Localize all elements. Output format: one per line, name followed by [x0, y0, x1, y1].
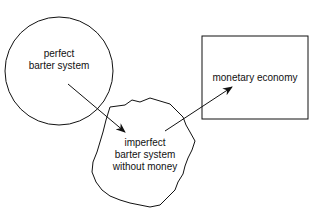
label-line: imperfect [100, 137, 190, 149]
monetary-economy-label: monetary economy [205, 72, 305, 84]
diagram-canvas: perfect barter system imperfect barter s… [0, 0, 321, 218]
perfect-barter-label: perfect barter system [19, 48, 99, 72]
arrow-perfect-to-imperfect [68, 84, 125, 132]
diagram-shapes [0, 0, 321, 218]
label-line: without money [100, 161, 190, 173]
label-line: perfect [19, 48, 99, 60]
label-line: barter system [100, 149, 190, 161]
label-line: monetary economy [205, 72, 305, 84]
label-line: barter system [19, 60, 99, 72]
imperfect-barter-label: imperfect barter system without money [100, 137, 190, 173]
